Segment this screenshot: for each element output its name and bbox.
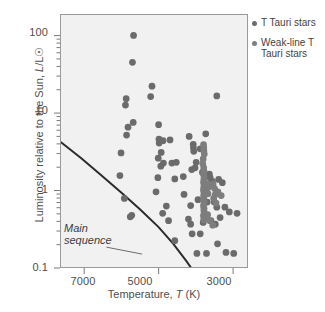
data-point: [223, 249, 230, 256]
data-point: [186, 133, 193, 140]
data-point: [147, 93, 154, 100]
data-point: [118, 150, 125, 157]
data-point: [181, 191, 188, 198]
data-point: [180, 173, 187, 180]
data-point: [121, 195, 128, 202]
data-point: [197, 230, 204, 237]
data-point: [173, 159, 180, 166]
x-axis-title-symbol: T: [176, 288, 183, 300]
xtick-label-7000: 7000: [60, 275, 106, 287]
data-point: [129, 59, 136, 66]
data-point: [130, 119, 137, 126]
x-axis-title: Temperature, T (K): [60, 288, 248, 300]
data-point: [158, 149, 165, 156]
legend: T Tauri stars Weak-line T Tauri stars: [252, 17, 324, 68]
data-point: [159, 210, 166, 217]
data-point: [187, 202, 194, 209]
data-point: [219, 179, 226, 186]
y-axis-title-unit: /L☉: [33, 47, 45, 66]
legend-item-t-tauri[interactable]: T Tauri stars: [252, 17, 324, 28]
data-point: [125, 124, 132, 131]
data-point: [153, 188, 160, 195]
data-point: [155, 174, 162, 181]
data-point: [123, 132, 130, 139]
y-axis-title-symbol: L: [33, 66, 45, 72]
data-point: [204, 211, 211, 218]
data-point: [122, 102, 129, 109]
data-point: [160, 137, 167, 144]
data-point: [165, 217, 172, 224]
main-sequence-annotation: Main sequence: [64, 222, 112, 246]
data-point: [202, 130, 209, 137]
data-point: [171, 237, 178, 244]
y-axis-title: Luminosity relative to the Sun, L/L☉: [33, 20, 46, 250]
data-point: [130, 32, 137, 39]
data-point: [226, 209, 233, 216]
data-point: [234, 210, 241, 217]
legend-item-weak-line-t-tauri[interactable]: Weak-line T Tauri stars: [252, 37, 324, 59]
data-point: [189, 230, 196, 237]
data-point: [203, 250, 210, 257]
data-point: [155, 121, 162, 128]
xtick-label-3000: 3000: [196, 275, 242, 287]
data-point: [117, 172, 124, 179]
annotation-leader-line: [107, 247, 143, 254]
data-point: [230, 250, 237, 257]
legend-marker-icon: [252, 21, 257, 26]
annotation-line-1: Main: [64, 222, 112, 234]
data-point: [218, 192, 225, 199]
figure-hr-diagram: 100 10 1 0.1 7000 5000 3000 Temperature,…: [0, 0, 325, 312]
data-point: [205, 190, 212, 197]
data-point: [194, 250, 201, 257]
data-point: [209, 222, 216, 229]
legend-label-weak-line-t-tauri: Weak-line T Tauri stars: [261, 37, 324, 59]
data-point: [214, 240, 221, 247]
xtick-label-5000: 5000: [117, 275, 163, 287]
legend-marker-icon: [252, 41, 257, 46]
x-axis-title-main: Temperature,: [108, 288, 173, 300]
data-point: [217, 214, 224, 221]
legend-label-t-tauri: T Tauri stars: [261, 17, 316, 28]
y-axis-title-main: Luminosity relative to the Sun,: [33, 75, 45, 222]
ytick-label-0.1: 0.1: [8, 261, 48, 273]
data-point: [187, 221, 194, 228]
data-point: [188, 166, 195, 173]
data-point: [171, 176, 178, 183]
data-point: [190, 148, 197, 155]
data-point: [213, 93, 220, 100]
data-point: [155, 155, 162, 162]
data-point: [123, 95, 130, 102]
data-point: [128, 212, 135, 219]
data-point: [163, 203, 170, 210]
data-point: [149, 83, 156, 90]
data-point: [167, 137, 174, 144]
x-axis-title-unit: (K): [186, 288, 201, 300]
data-point: [213, 200, 220, 207]
annotation-line-2: sequence: [64, 234, 112, 246]
data-point: [157, 163, 164, 170]
